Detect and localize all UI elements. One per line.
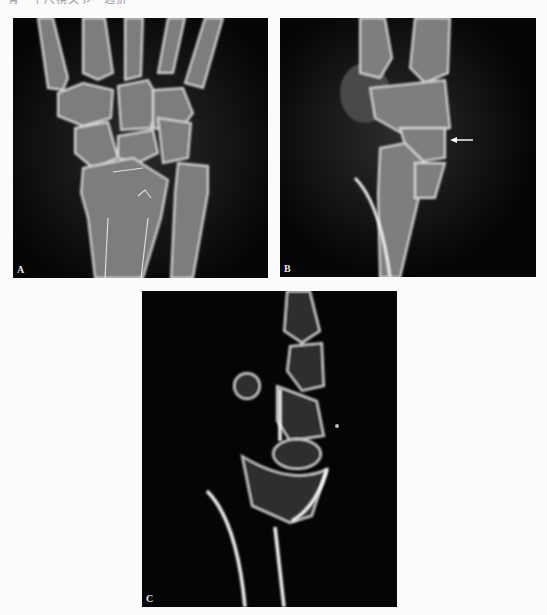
panel-label-c: C (146, 593, 153, 604)
figure-caption-fragment: 骨 · 下尺桡关节 · 远折 · (8, 0, 308, 4)
panel-b-lateral-radiograph: B (280, 18, 536, 277)
wrist-sagittal-ct-illustration (142, 291, 397, 607)
panel-c-sagittal-ct: C (142, 291, 397, 607)
panel-label-a: A (17, 264, 24, 275)
wrist-pa-xray-illustration (13, 18, 268, 278)
panel-a-pa-radiograph: A (13, 18, 268, 278)
wrist-lateral-xray-illustration (280, 18, 536, 277)
panel-label-b: B (284, 263, 291, 274)
